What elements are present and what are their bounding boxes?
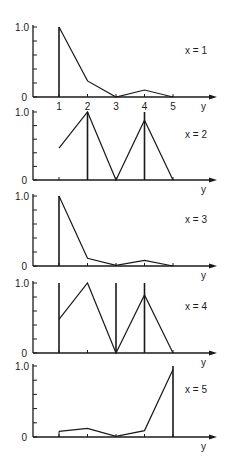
y-tick-label-max: 1.0 bbox=[15, 22, 29, 33]
panel-label: x = 5 bbox=[185, 384, 207, 395]
x-axis-label: y bbox=[201, 101, 206, 112]
panel-x5: 1.00yx = 5 bbox=[15, 361, 217, 453]
y-tick-label-max: 1.0 bbox=[15, 361, 29, 372]
panel-x1: 1.0012345yx = 1 bbox=[15, 22, 217, 113]
panel-x3: 1.00yx = 3 bbox=[15, 191, 217, 282]
x-axis-label: y bbox=[201, 357, 206, 368]
y-tick-label-zero: 0 bbox=[21, 261, 27, 272]
x-tick-label: 5 bbox=[170, 101, 176, 112]
x-tick-label: 4 bbox=[142, 101, 148, 112]
x-tick-label: 2 bbox=[85, 101, 91, 112]
y-tick-label-zero: 0 bbox=[21, 348, 27, 359]
y-tick-label-zero: 0 bbox=[21, 432, 27, 443]
x-tick-label: 3 bbox=[113, 101, 119, 112]
series-line bbox=[59, 196, 173, 266]
y-tick-label-max: 1.0 bbox=[15, 107, 29, 118]
panel-x4: 1.00yx = 4 bbox=[15, 278, 217, 369]
y-tick-label-zero: 0 bbox=[21, 175, 27, 186]
x-axis-arrow-icon bbox=[209, 264, 217, 269]
panel-label: x = 4 bbox=[185, 301, 207, 312]
x-axis-label: y bbox=[201, 184, 206, 195]
x-axis-label: y bbox=[201, 270, 206, 281]
x-tick-label: 1 bbox=[56, 101, 62, 112]
stacked-stem-line-charts: 1.0012345yx = 11.00yx = 21.00yx = 31.00y… bbox=[0, 0, 231, 465]
series-line bbox=[59, 112, 173, 180]
series-line bbox=[59, 27, 173, 97]
series-line bbox=[59, 370, 173, 437]
panel-x2: 1.00yx = 2 bbox=[15, 107, 217, 196]
x-axis-arrow-icon bbox=[209, 95, 217, 100]
panel-label: x = 1 bbox=[185, 45, 207, 56]
y-tick-label-max: 1.0 bbox=[15, 191, 29, 202]
y-tick-label-max: 1.0 bbox=[15, 278, 29, 289]
panel-label: x = 2 bbox=[185, 129, 207, 140]
x-axis-label: y bbox=[201, 441, 206, 452]
panel-label: x = 3 bbox=[185, 214, 207, 225]
x-axis-arrow-icon bbox=[209, 178, 217, 183]
x-axis-arrow-icon bbox=[209, 351, 217, 356]
y-tick-label-zero: 0 bbox=[21, 92, 27, 103]
x-axis-arrow-icon bbox=[209, 435, 217, 440]
